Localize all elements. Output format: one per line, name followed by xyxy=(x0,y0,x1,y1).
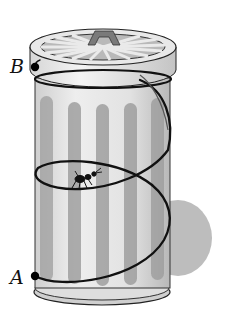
point-b-label: B xyxy=(10,57,24,76)
point-a-marker xyxy=(31,272,39,280)
helix-cylinder-diagram xyxy=(0,0,226,317)
point-a-label: A xyxy=(10,268,24,287)
lid xyxy=(30,29,176,88)
point-b-marker xyxy=(31,63,39,71)
